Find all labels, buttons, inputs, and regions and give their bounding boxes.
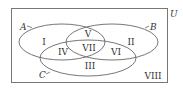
region-vi-label: VI [110, 47, 121, 57]
region-iii-label: III [85, 61, 96, 71]
region-vii-label: VII [81, 43, 96, 53]
region-ii-label: II [127, 37, 135, 47]
region-i-label: I [42, 37, 46, 47]
region-v-label: V [84, 29, 92, 39]
set-a-pointer-arrow-icon [27, 26, 32, 28]
set-c-label: C [39, 70, 46, 80]
set-c-pointer-arrow-icon [46, 72, 50, 74]
universe-label: U [170, 9, 178, 19]
set-b-label: B [149, 22, 157, 32]
set-b-pointer-arrow-icon [145, 26, 149, 28]
set-a-label: A [19, 22, 27, 32]
venn-diagram: U A B C I II III IV V VI VII VIII [0, 0, 183, 88]
region-iv-label: IV [58, 47, 69, 57]
region-viii-label: VIII [143, 71, 162, 81]
